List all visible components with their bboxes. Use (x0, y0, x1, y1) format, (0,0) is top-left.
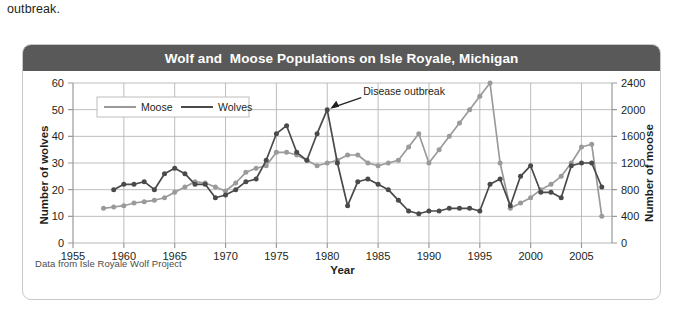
data-point (396, 158, 401, 163)
data-point (162, 195, 167, 200)
data-point (111, 205, 116, 210)
y-tick-label-left: 50 (52, 104, 64, 116)
data-point (152, 187, 157, 192)
data-point (325, 107, 330, 112)
data-point (284, 150, 289, 155)
annotation-arrow-head (330, 101, 339, 109)
data-point (477, 209, 482, 214)
x-tick-label: 1975 (264, 250, 288, 262)
data-point (254, 177, 259, 182)
legend-label-moose: Moose (141, 101, 173, 113)
page-root: outbreak. Wolf and Moose Populations on … (0, 0, 685, 314)
y-tick-label-left: 60 (52, 77, 64, 89)
source-note: Data from Isle Royale Wolf Project (35, 258, 182, 269)
x-tick-label: 1985 (366, 250, 390, 262)
data-point (243, 170, 248, 175)
chart-legend: MooseWolves (97, 97, 252, 117)
x-tick-label: 1995 (468, 250, 492, 262)
data-point (335, 161, 340, 166)
data-point (213, 195, 218, 200)
data-point (172, 190, 177, 195)
data-point (182, 185, 187, 190)
data-point (243, 179, 248, 184)
data-point (549, 190, 554, 195)
data-point (142, 199, 147, 204)
data-point (193, 182, 198, 187)
y-axis-label-left: Number of wolves (38, 115, 50, 235)
chart-title: Wolf and Moose Populations on Isle Royal… (23, 45, 660, 71)
data-point (447, 134, 452, 139)
data-point (437, 147, 442, 152)
x-tick-label: 1990 (417, 250, 441, 262)
y-axis-label-right: Number of moose (643, 113, 655, 233)
data-point (488, 182, 493, 187)
data-point (528, 195, 533, 200)
data-point (538, 190, 543, 195)
data-point (182, 171, 187, 176)
y-tick-label-right: 1600 (621, 130, 645, 142)
data-point (345, 153, 350, 158)
data-point (508, 203, 513, 208)
data-point (386, 187, 391, 192)
data-point (376, 182, 381, 187)
data-point (132, 201, 137, 206)
data-point (254, 166, 259, 171)
y-tick-label-left: 0 (58, 237, 64, 249)
data-point (325, 161, 330, 166)
y-tick-label-right: 400 (621, 210, 639, 222)
x-tick-label: 1980 (315, 250, 339, 262)
data-point (355, 153, 360, 158)
data-point (406, 209, 411, 214)
data-point (488, 81, 493, 86)
x-tick-label: 2000 (518, 250, 542, 262)
y-tick-label-right: 0 (621, 237, 627, 249)
data-point (172, 166, 177, 171)
data-point (121, 182, 126, 187)
data-point (498, 177, 503, 182)
data-point (274, 131, 279, 136)
data-point (111, 187, 116, 192)
legend-label-wolves: Wolves (218, 101, 252, 113)
data-point (315, 131, 320, 136)
data-point (599, 185, 604, 190)
x-tick-label: 2005 (569, 250, 593, 262)
data-point (599, 214, 604, 219)
data-point (569, 163, 574, 168)
data-point (365, 177, 370, 182)
data-point (152, 198, 157, 203)
y-tick-label-left: 10 (52, 210, 64, 222)
data-point (549, 182, 554, 187)
data-point (467, 107, 472, 112)
y-tick-label-right: 1200 (621, 157, 645, 169)
data-point (498, 161, 503, 166)
data-point (426, 161, 431, 166)
data-point (121, 203, 126, 208)
data-point (559, 195, 564, 200)
y-tick-label-right: 800 (621, 184, 639, 196)
data-point (376, 163, 381, 168)
data-point (203, 182, 208, 187)
data-point (559, 174, 564, 179)
data-point (355, 179, 360, 184)
intro-text: outbreak. (7, 2, 60, 16)
data-point (579, 161, 584, 166)
y-tick-label-left: 30 (52, 157, 64, 169)
data-point (457, 121, 462, 126)
data-point (426, 209, 431, 214)
data-point (274, 150, 279, 155)
data-point (518, 201, 523, 206)
data-point (304, 158, 309, 163)
data-point (315, 163, 320, 168)
y-tick-label-right: 2400 (621, 77, 645, 89)
data-point (396, 198, 401, 203)
data-point (406, 145, 411, 150)
data-point (416, 131, 421, 136)
data-point (213, 185, 218, 190)
annotation-label: Disease outbreak (363, 85, 445, 97)
data-point (477, 94, 482, 99)
data-point (365, 161, 370, 166)
data-point (101, 206, 106, 211)
data-point (264, 158, 269, 163)
data-point (142, 179, 147, 184)
data-point (457, 206, 462, 211)
